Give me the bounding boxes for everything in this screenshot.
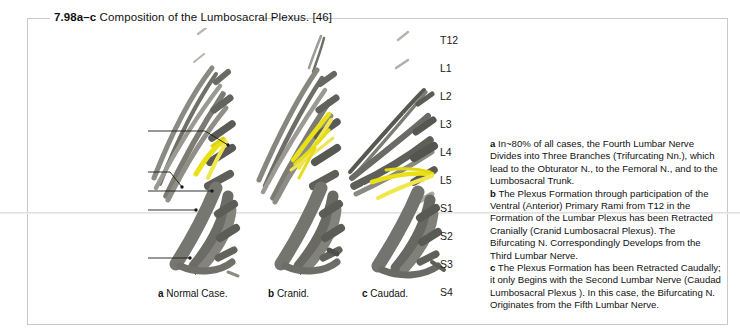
panel-caption-c: c Caudad. [362,288,408,299]
spine-level-l1: L1 [440,62,452,74]
panel-b-drawing [259,36,341,271]
figure-frame-right [727,18,728,325]
spine-level-s4: S4 [440,286,453,298]
spine-level-s1: S1 [440,202,453,214]
figure-number: 7.98a–c [54,11,96,23]
figure-note-c-marker: c [490,262,495,273]
panel-caption-a-text: Normal Case. [166,288,227,299]
panel-marker-b: b [268,288,274,299]
spine-level-s2: S2 [440,230,453,242]
spine-level-l5: L5 [440,174,452,186]
spine-level-l2: L2 [440,90,452,102]
figure-note-a-text: In~80% of all cases, the Fourth Lumbar N… [490,138,718,186]
panel-marker-a: a [158,288,164,299]
panel-caption-b-text: Cranid. [277,288,309,299]
figure-title: 7.98a–c Composition of the Lumbosacral P… [54,11,332,23]
spine-level-s3: S3 [440,258,453,270]
figure-title-text: Composition of the Lumbosacral Plexus. [… [100,11,333,23]
figure-note-b-text: The Plexus Formation through participati… [490,188,713,261]
figure-note-a-marker: a [490,138,495,149]
figure-note-c-text: The Plexus Formation has been Retracted … [490,262,721,310]
nerve-callout-labels: Trifurcating N. Femoral N. Lumbosacral T… [0,110,200,270]
figure-note-b: b The Plexus Formation through participa… [490,188,722,262]
figure-page: 7.98a–c Composition of the Lumbosacral P… [0,0,740,333]
spine-level-l3: L3 [440,118,452,130]
figure-frame-top-left [27,18,50,19]
figure-note-c: c The Plexus Formation has been Retracte… [490,262,722,312]
spine-level-labels: T12 L1 L2 L3 L4 L5 S1 S2 S3 S4 [440,28,485,283]
panel-caption-b: b Cranid. [268,288,309,299]
figure-notes: a In~80% of all cases, the Fourth Lumbar… [490,138,722,312]
panel-caption-a: a Normal Case. [158,288,227,299]
panel-marker-c: c [362,288,368,299]
figure-note-b-marker: b [490,188,496,199]
panel-c-drawing [350,32,444,275]
panel-caption-c-text: Caudad. [370,288,408,299]
figure-note-a: a In~80% of all cases, the Fourth Lumbar… [490,138,722,188]
spine-level-t12: T12 [440,34,458,46]
figure-frame-bottom [27,324,728,325]
spine-level-l4: L4 [440,146,452,158]
